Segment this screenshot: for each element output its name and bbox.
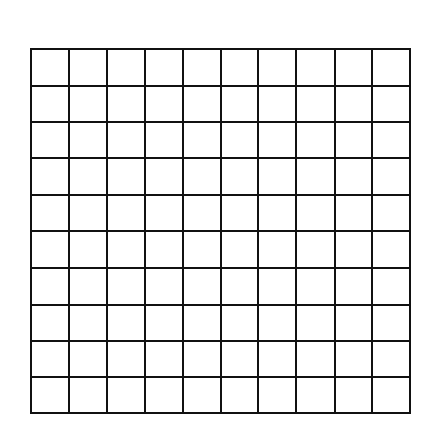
- grid-diagram: [0, 0, 426, 436]
- grid-lines: [30, 48, 411, 414]
